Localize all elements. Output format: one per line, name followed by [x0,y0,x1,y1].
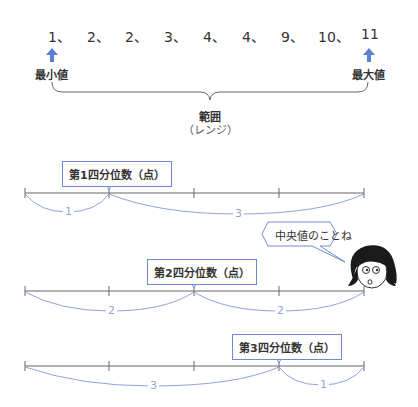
callout-q2: 第2四分位数（点） [147,259,257,285]
segment-count: 2 [275,304,286,317]
character-avatar [348,245,397,288]
callout-q1-label: 第1四分位数（点） [69,169,165,182]
arrow-up-icon [46,48,58,62]
number-line-q3 [25,361,364,371]
speech-text: 中央値のことね [275,227,352,243]
callout-q2-label: 第2四分位数（点） [154,267,250,280]
number-line-q1 [25,188,364,198]
segment-count: 1 [63,205,74,218]
segment-count: 3 [233,207,244,220]
segment-count: 2 [106,304,117,317]
callout-q3: 第3四分位数（点） [232,334,342,360]
segment-count: 3 [148,379,159,392]
range-brace [52,82,368,100]
callout-q1: 第1四分位数（点） [62,161,172,187]
arrow-up-icon [363,48,375,62]
segment-count: 1 [318,378,329,391]
callout-q3-label: 第3四分位数（点） [239,342,335,355]
diagram-graphics [0,0,418,407]
